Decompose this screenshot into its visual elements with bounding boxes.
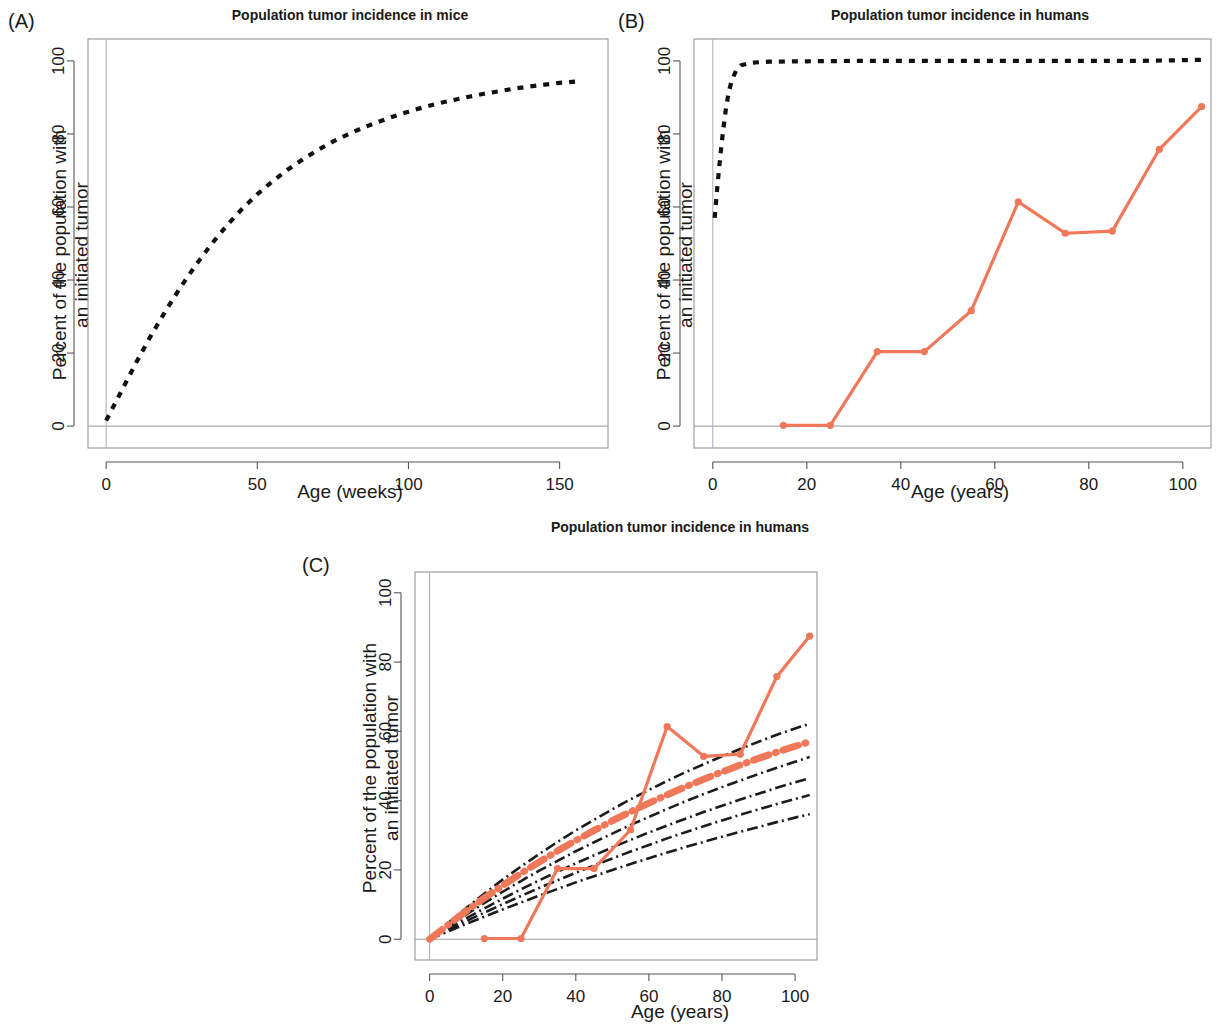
data-point-marker	[806, 632, 813, 639]
x-axis-tick-label: 100	[1169, 475, 1197, 494]
y-axis-tick-label: 0	[655, 421, 674, 430]
y-axis-tick-label: 20	[655, 344, 674, 363]
panel-b-title: Population tumor incidence in humans	[831, 7, 1089, 23]
data-point-marker	[1198, 103, 1205, 110]
x-axis-tick-label: 0	[101, 475, 110, 494]
data-point-marker	[1109, 227, 1116, 234]
y-axis-tick-label: 80	[655, 124, 674, 143]
data-point-marker	[664, 723, 671, 730]
x-axis-tick-label: 20	[493, 987, 512, 1006]
y-axis-tick-label: 80	[49, 124, 68, 143]
y-axis-tick-label: 60	[376, 722, 395, 741]
y-axis-tick-label: 80	[376, 653, 395, 672]
figure-root: (A) Population tumor incidence in mice P…	[0, 0, 1221, 1027]
x-axis-tick-label: 80	[713, 987, 732, 1006]
data-point-marker	[700, 753, 707, 760]
panel-b-plot-area: 020406080100020406080100	[655, 39, 1212, 494]
y-axis-tick-label: 40	[655, 271, 674, 290]
data-point-marker	[1156, 146, 1163, 153]
plot-frame	[88, 39, 608, 448]
panel-a-ylabel: Percent of the population with an initia…	[49, 130, 92, 380]
panel-c-chart: (C) Population tumor incidence in humans…	[280, 510, 1070, 1027]
svg-text:Percent of the population with: Percent of the population with	[653, 130, 674, 380]
plot-frame	[415, 572, 817, 960]
panel-a-title: Population tumor incidence in mice	[232, 7, 469, 23]
x-axis-tick-label: 100	[394, 475, 422, 494]
y-axis-tick-label: 100	[49, 47, 68, 75]
svg-text:an initiated tumor: an initiated tumor	[675, 181, 696, 327]
panel-c: (C) Population tumor incidence in humans…	[280, 510, 1070, 1027]
x-axis-tick-label: 150	[545, 475, 573, 494]
x-axis-tick-label: 80	[1079, 475, 1098, 494]
panel-a-xlabel: Age (weeks)	[297, 481, 403, 502]
data-point-marker	[921, 348, 928, 355]
panel-c-ylabel: Percent of the population with an initia…	[359, 643, 402, 893]
x-axis-tick-label: 50	[248, 475, 267, 494]
y-axis-tick-label: 0	[376, 934, 395, 943]
panel-a-chart: (A) Population tumor incidence in mice P…	[0, 0, 620, 512]
data-series-line	[430, 778, 810, 939]
x-axis-tick-label: 0	[708, 475, 717, 494]
x-axis-tick-label: 0	[425, 987, 434, 1006]
panel-c-label: (C)	[302, 554, 330, 576]
x-axis-tick-label: 40	[891, 475, 910, 494]
svg-text:Percent of the population with: Percent of the population with	[49, 130, 70, 380]
data-point-marker	[481, 935, 488, 942]
panel-b-chart: (B) Population tumor incidence in humans…	[610, 0, 1221, 512]
y-axis-tick-label: 40	[376, 791, 395, 810]
y-axis-tick-label: 100	[655, 47, 674, 75]
panel-c-title: Population tumor incidence in humans	[551, 519, 809, 535]
x-axis-tick-label: 20	[797, 475, 816, 494]
plot-frame	[694, 39, 1211, 448]
y-axis-tick-label: 20	[49, 344, 68, 363]
data-point-marker	[1015, 198, 1022, 205]
data-series-line	[430, 814, 810, 939]
data-point-marker	[968, 307, 975, 314]
y-axis-tick-label: 0	[49, 421, 68, 430]
svg-text:an initiated tumor: an initiated tumor	[381, 694, 402, 840]
y-axis-tick-label: 40	[49, 271, 68, 290]
data-series-line	[484, 636, 809, 938]
data-point-marker	[827, 422, 834, 429]
y-axis-tick-label: 60	[49, 198, 68, 217]
data-point-marker	[590, 865, 597, 872]
svg-text:Percent of the population with: Percent of the population with	[359, 643, 380, 893]
x-axis-tick-label: 60	[639, 987, 658, 1006]
data-point-marker	[874, 348, 881, 355]
data-point-marker	[1062, 230, 1069, 237]
panel-a-label: (A)	[8, 10, 35, 32]
panel-b-ylabel: Percent of the population with an initia…	[653, 130, 696, 380]
data-point-marker	[554, 865, 561, 872]
panel-a: (A) Population tumor incidence in mice P…	[0, 0, 620, 512]
data-point-marker	[737, 751, 744, 758]
x-axis-tick-label: 60	[985, 475, 1004, 494]
data-series-line	[783, 107, 1201, 426]
x-axis-tick-label: 40	[566, 987, 585, 1006]
panel-b-label: (B)	[618, 10, 645, 32]
x-axis-tick-label: 100	[781, 987, 809, 1006]
y-axis-tick-label: 20	[376, 860, 395, 879]
y-axis-tick-label: 100	[376, 579, 395, 607]
data-series-line	[106, 81, 578, 420]
data-point-marker	[517, 935, 524, 942]
panel-a-plot-area: 020406080100050100150	[49, 39, 609, 494]
data-series-line	[715, 60, 1202, 218]
panel-b: (B) Population tumor incidence in humans…	[610, 0, 1221, 512]
data-point-marker	[773, 673, 780, 680]
y-axis-tick-label: 60	[655, 198, 674, 217]
data-point-marker	[780, 422, 787, 429]
panel-c-plot-area: 020406080100020406080100	[376, 572, 818, 1006]
data-point-marker	[627, 826, 634, 833]
